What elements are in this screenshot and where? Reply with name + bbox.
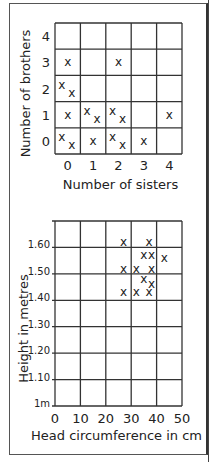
y-tick-label: 1.40 <box>28 292 50 303</box>
data-point-marker: x <box>145 285 152 299</box>
height-head-scatter-chart: 010203040501m1.101.201.301.401.501.60Hea… <box>0 0 220 462</box>
data-point-marker: x <box>133 262 140 276</box>
x-tick-label: 50 <box>174 411 191 426</box>
data-point-marker: x <box>120 285 127 299</box>
y-tick-label: 1.30 <box>28 319 50 330</box>
data-point-marker: x <box>120 262 127 276</box>
data-point-marker: x <box>120 235 127 249</box>
y-axis-label: Height in metres <box>16 274 31 383</box>
x-tick-label: 20 <box>98 411 115 426</box>
x-tick-label: 10 <box>72 411 89 426</box>
y-tick-label: 1.60 <box>28 239 50 250</box>
data-point-marker: x <box>145 235 152 249</box>
data-point-marker: x <box>148 262 155 276</box>
x-tick-label: 0 <box>51 411 59 426</box>
data-point-marker: x <box>161 251 168 265</box>
data-point-marker: x <box>133 285 140 299</box>
x-axis-label: Head circumference in cm <box>31 428 202 443</box>
data-point-marker: x <box>148 248 155 262</box>
y-tick-label: 1.50 <box>28 266 50 277</box>
y-tick-label: 1.10 <box>28 372 50 383</box>
data-point-marker: x <box>140 272 147 286</box>
y-tick-label: 1m <box>34 398 50 409</box>
data-point-marker: x <box>140 248 147 262</box>
x-tick-label: 40 <box>148 411 165 426</box>
y-tick-label: 1.20 <box>28 345 50 356</box>
x-tick-label: 30 <box>123 411 140 426</box>
